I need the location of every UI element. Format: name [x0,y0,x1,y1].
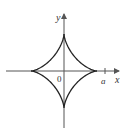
tick-label-a: a [101,76,106,86]
origin-label: 0 [57,74,62,84]
astroid-diagram: y x 0 a [0,0,129,137]
astroid-figure: y x 0 a [0,0,129,137]
x-axis-label: x [114,74,120,85]
y-axis-label: y [55,12,61,23]
